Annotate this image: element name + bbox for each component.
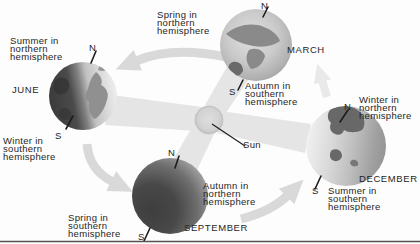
june-season-north-label: Summer in northern hemisphere <box>10 37 63 61</box>
seasons-diagram: Summer in northern hemisphere JUNE Winte… <box>0 0 420 244</box>
september-south-pole-label: S <box>138 231 144 242</box>
june-south-pole-label: S <box>55 130 61 141</box>
september-season-north-label: Autumn in northern hemisphere <box>203 182 256 206</box>
june-north-pole-label: N <box>89 42 96 53</box>
march-month-label: MARCH <box>287 44 325 55</box>
orbit-arrow-december-to-march <box>322 80 327 97</box>
beam-to-june <box>105 95 202 131</box>
june-month-label: JUNE <box>12 84 39 95</box>
september-season-south-label: Spring in southern hemisphere <box>68 214 121 238</box>
september-month-label: SEPTEMBER <box>184 222 248 233</box>
june-season-south-label: Winter in southern hemisphere <box>3 137 56 161</box>
orbit-arrow-march-to-june <box>136 52 226 61</box>
december-season-south-label: Summer in southern hemisphere <box>328 187 381 211</box>
march-season-south-label: Autumn in southern hemisphere <box>245 82 298 106</box>
sun-label: Sun <box>243 139 261 150</box>
december-month-label: DECEMBER <box>359 173 418 184</box>
earth-march <box>220 9 292 81</box>
sun <box>195 106 223 134</box>
continent <box>98 64 110 71</box>
march-south-pole-label: S <box>229 86 235 97</box>
september-north-pole-label: N <box>168 147 175 158</box>
earth-june <box>49 62 117 130</box>
september-south-axis-tick <box>144 228 150 241</box>
december-south-pole-label: S <box>312 185 318 196</box>
march-season-north-label: Spring in northern hemisphere <box>157 11 210 35</box>
march-north-pole-label: N <box>261 0 268 11</box>
beam-to-december <box>217 111 311 153</box>
december-season-north-label: Winter in northern hemisphere <box>359 96 412 120</box>
orbit-arrow-june-to-september <box>87 144 113 182</box>
december-north-pole-label: N <box>344 101 351 112</box>
